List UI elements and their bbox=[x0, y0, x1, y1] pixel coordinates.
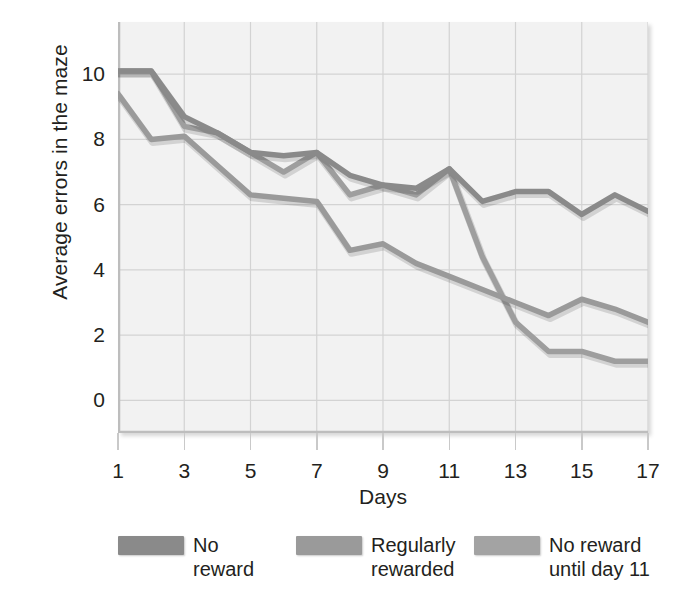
legend-swatch-icon bbox=[296, 536, 362, 555]
chart-figure: Average errors in the maze 0246810135791… bbox=[0, 0, 681, 605]
x-tick-label: 17 bbox=[636, 459, 659, 483]
x-tick-label: 3 bbox=[178, 459, 190, 483]
legend-entry[interactable]: Regularly rewarded bbox=[296, 533, 474, 581]
chart-plot-svg bbox=[118, 22, 648, 433]
y-tick-label: 2 bbox=[93, 323, 105, 347]
legend-swatch-icon bbox=[474, 536, 540, 555]
x-tick-label: 1 bbox=[112, 459, 124, 483]
y-tick-label: 4 bbox=[93, 258, 105, 282]
x-tick-mark bbox=[449, 433, 451, 450]
legend-label: No reward bbox=[193, 533, 254, 581]
x-tick-label: 7 bbox=[311, 459, 323, 483]
x-tick-label: 9 bbox=[377, 459, 389, 483]
legend-label: No reward until day 11 bbox=[549, 533, 650, 581]
plot-area: 02468101357911131517 bbox=[118, 22, 648, 433]
x-tick-label: 11 bbox=[438, 459, 460, 483]
x-tick-mark bbox=[581, 433, 583, 450]
x-tick-mark bbox=[382, 433, 384, 450]
y-tick-label: 0 bbox=[93, 388, 105, 412]
x-tick-mark bbox=[250, 433, 252, 450]
legend-entry[interactable]: No reward bbox=[118, 533, 296, 581]
x-tick-mark bbox=[316, 433, 318, 450]
y-tick-label: 6 bbox=[93, 193, 105, 217]
y-axis-title: Average errors in the maze bbox=[48, 12, 72, 332]
x-tick-label: 15 bbox=[570, 459, 593, 483]
x-tick-label: 5 bbox=[245, 459, 257, 483]
legend-label: Regularly rewarded bbox=[371, 533, 455, 581]
x-tick-mark bbox=[647, 433, 649, 450]
y-tick-label: 8 bbox=[93, 127, 105, 151]
y-tick-label: 10 bbox=[82, 62, 105, 86]
x-tick-label: 13 bbox=[504, 459, 527, 483]
chart-legend: No rewardRegularly rewardedNo reward unt… bbox=[118, 533, 663, 581]
legend-entry[interactable]: No reward until day 11 bbox=[474, 533, 652, 581]
x-tick-mark bbox=[184, 433, 186, 450]
legend-swatch-icon bbox=[118, 536, 184, 555]
x-axis-title: Days bbox=[118, 485, 648, 509]
x-tick-mark bbox=[117, 433, 119, 450]
x-tick-mark bbox=[515, 433, 517, 450]
series-shadow bbox=[120, 74, 649, 364]
